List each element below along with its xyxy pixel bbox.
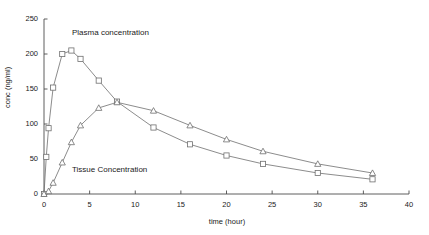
y-tick-label: 100: [16, 120, 38, 128]
x-tick-label: 40: [405, 201, 413, 209]
plasma-series-label: Plasma concentration: [72, 29, 149, 37]
x-tick-label: 25: [268, 201, 276, 209]
data-point-marker: [44, 154, 49, 159]
data-point-marker: [260, 161, 265, 166]
data-point-marker: [50, 180, 56, 186]
y-tick-label: 250: [16, 15, 38, 23]
y-tick-label: 150: [16, 85, 38, 93]
series-group: [41, 48, 376, 197]
data-point-marker: [96, 78, 101, 83]
y-axis-title: conc (ng/ml): [4, 67, 12, 108]
x-tick-label: 10: [131, 201, 139, 209]
data-point-marker: [69, 48, 74, 53]
data-point-marker: [315, 170, 320, 175]
x-tick-label: 15: [177, 201, 185, 209]
series-plasma-concentration: [41, 48, 375, 197]
data-point-marker: [187, 142, 192, 147]
y-tick-label: 200: [16, 50, 38, 58]
data-point-marker: [223, 136, 229, 142]
x-tick-label: 30: [314, 201, 322, 209]
x-axis-title: time (hour): [209, 218, 245, 226]
data-point-marker: [45, 188, 51, 194]
x-tick-label: 0: [42, 201, 46, 209]
tissue-series-label: Tissue Concentration: [72, 166, 147, 174]
data-point-marker: [187, 122, 193, 128]
data-point-marker: [59, 159, 65, 165]
y-tick-label: 50: [16, 155, 38, 163]
data-point-marker: [151, 125, 156, 130]
x-tick-label: 35: [359, 201, 367, 209]
data-point-marker: [68, 139, 74, 145]
data-point-marker: [78, 56, 83, 61]
y-tick-label: 0: [16, 190, 38, 198]
series-line: [44, 102, 373, 194]
data-point-marker: [46, 126, 51, 131]
data-point-marker: [370, 177, 375, 182]
data-point-marker: [60, 51, 65, 56]
data-point-marker: [224, 153, 229, 158]
chart-container: 050100150200250 0510152025303540 conc (n…: [0, 0, 429, 235]
series-tissue-concentration: [41, 99, 376, 196]
data-point-marker: [51, 85, 56, 90]
x-tick-label: 20: [222, 201, 230, 209]
x-tick-label: 5: [88, 201, 92, 209]
